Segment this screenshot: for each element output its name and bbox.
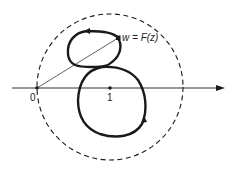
w-label-prefix: w = bbox=[122, 32, 141, 43]
one-point bbox=[108, 86, 112, 90]
origin-label: 0 bbox=[30, 92, 36, 103]
curve-direction-arrow-icon bbox=[141, 116, 147, 123]
w-label: w = F(z) bbox=[122, 32, 158, 43]
curve-upper-loop bbox=[68, 31, 121, 67]
one-label: 1 bbox=[107, 92, 113, 103]
origin-point bbox=[35, 86, 39, 90]
w-label-arg: (z) bbox=[147, 32, 159, 43]
w-point bbox=[116, 36, 121, 41]
diagram-canvas: 0 1 w = F(z) bbox=[0, 0, 237, 174]
curve-direction-arrow-icon bbox=[84, 28, 90, 34]
axis-arrow-icon bbox=[216, 85, 225, 91]
radius-line bbox=[37, 38, 118, 88]
